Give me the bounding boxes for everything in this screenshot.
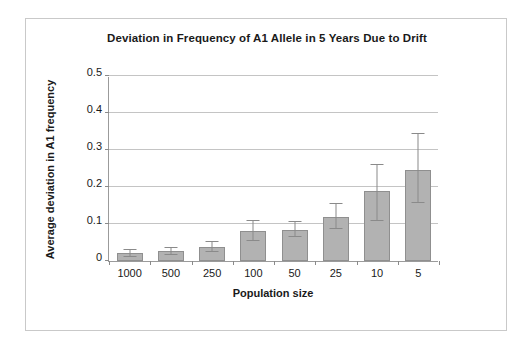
- error-bar-cap-upper: [247, 220, 260, 221]
- x-tick-label: 250: [203, 267, 221, 279]
- error-bar-cap-lower: [206, 251, 219, 252]
- y-tick-label: 0.4: [87, 103, 102, 115]
- gridline: [109, 75, 438, 76]
- x-tick-mark: [357, 261, 358, 265]
- chart-title: Deviation in Frequency of A1 Allele in 5…: [26, 32, 508, 44]
- y-tick-label: 0.5: [87, 66, 102, 78]
- y-tick-label: 0.1: [87, 214, 102, 226]
- x-tick-label: 10: [371, 267, 383, 279]
- y-tick-label: 0.2: [87, 177, 102, 189]
- error-bar-cap-upper: [329, 203, 342, 204]
- error-bar-cap-lower: [247, 240, 260, 241]
- y-tick-mark: [105, 75, 109, 76]
- error-bar-line: [377, 165, 378, 222]
- error-bar-line: [253, 221, 254, 241]
- x-tick-mark: [398, 261, 399, 265]
- error-bar-cap-lower: [329, 228, 342, 229]
- error-bar-cap-lower: [371, 220, 384, 221]
- error-bar-line: [294, 222, 295, 237]
- error-bar-cap-upper: [123, 249, 136, 250]
- bar-group[interactable]: 100: [233, 77, 274, 261]
- x-tick-mark: [109, 261, 110, 265]
- y-tick-label: 0: [96, 251, 102, 263]
- bar-group[interactable]: 1000: [109, 77, 150, 261]
- y-axis-title: Average deviation in A1 frequency: [44, 77, 60, 262]
- error-bar-cap-lower: [123, 256, 136, 257]
- x-tick-mark: [192, 261, 193, 265]
- bar-group[interactable]: 50: [274, 77, 315, 261]
- error-bar-cap-upper: [288, 221, 301, 222]
- y-tick-label: 0.3: [87, 140, 102, 152]
- x-tick-label: 5: [415, 267, 421, 279]
- x-tick-label: 500: [162, 267, 180, 279]
- bar-group[interactable]: 500: [150, 77, 191, 261]
- x-tick-mark: [274, 261, 275, 265]
- x-tick-mark: [150, 261, 151, 265]
- error-bar-cap-lower: [164, 254, 177, 255]
- error-bar-cap-lower: [412, 202, 425, 203]
- x-tick-label: 1000: [117, 267, 141, 279]
- bar-group[interactable]: 10: [357, 77, 398, 261]
- x-tick-mark: [315, 261, 316, 265]
- error-bar-line: [418, 134, 419, 202]
- bar-group[interactable]: 250: [192, 77, 233, 261]
- x-axis-title: Population size: [108, 287, 438, 299]
- x-tick-mark: [233, 261, 234, 265]
- error-bar-cap-upper: [164, 247, 177, 248]
- error-bar-line: [335, 204, 336, 230]
- x-tick-label: 50: [289, 267, 301, 279]
- x-tick-label: 25: [330, 267, 342, 279]
- x-tick-label: 100: [244, 267, 262, 279]
- error-bar-cap-upper: [371, 164, 384, 165]
- error-bar-cap-upper: [206, 241, 219, 242]
- x-tick-mark: [439, 261, 440, 265]
- plot-area: 00.10.20.30.40.5 10005002501005025105: [108, 77, 438, 262]
- bar-group[interactable]: 25: [315, 77, 356, 261]
- error-bar-cap-upper: [412, 133, 425, 134]
- bar-group[interactable]: 5: [398, 77, 439, 261]
- error-bar-cap-lower: [288, 236, 301, 237]
- chart-frame: Deviation in Frequency of A1 Allele in 5…: [25, 18, 507, 331]
